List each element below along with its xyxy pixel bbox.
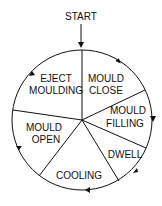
segment-cooling: COOLING (56, 170, 102, 181)
segment-mould-filling-l2: FILLING (106, 118, 144, 129)
segment-eject-moulding-l1: EJECT (40, 73, 72, 84)
cycle-diagram: START MOULD CLOSE MOULD FILLING DWELL CO… (0, 0, 162, 206)
segment-mould-close-l2: CLOSE (89, 85, 123, 96)
segment-mould-open-l1: MOULD (26, 122, 62, 133)
segment-mould-open-l2: OPEN (32, 134, 60, 145)
segment-mould-close-l1: MOULD (88, 73, 124, 84)
start-label: START (65, 11, 97, 22)
segment-eject-moulding-l2: MOULDING (29, 85, 83, 96)
segment-dwell: DWELL (108, 149, 143, 160)
segment-mould-filling-l1: MOULD (110, 105, 146, 116)
